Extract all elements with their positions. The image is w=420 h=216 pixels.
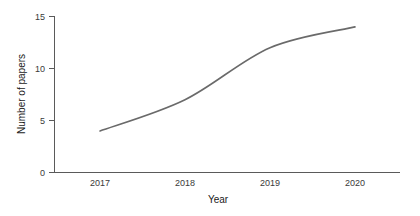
x-tick-label-2018: 2018 [175, 178, 195, 188]
x-tick-label-2017: 2017 [90, 178, 110, 188]
y-tick-label-5: 5 [40, 116, 45, 126]
y-tick-label-10: 10 [35, 64, 45, 74]
chart-plot-area: 0 5 10 15 2017 2018 2019 2020 Year Numbe… [0, 0, 420, 216]
y-tick-label-0: 0 [40, 168, 45, 178]
x-axis-title: Year [208, 194, 229, 205]
y-tick-label-15: 15 [35, 12, 45, 22]
line-chart-figure: 0 5 10 15 2017 2018 2019 2020 Year Numbe… [0, 0, 420, 216]
y-axis-title: Number of papers [16, 54, 27, 134]
x-tick-label-2019: 2019 [260, 178, 280, 188]
x-tick-label-2020: 2020 [345, 178, 365, 188]
data-line-number-of-papers [100, 27, 355, 131]
